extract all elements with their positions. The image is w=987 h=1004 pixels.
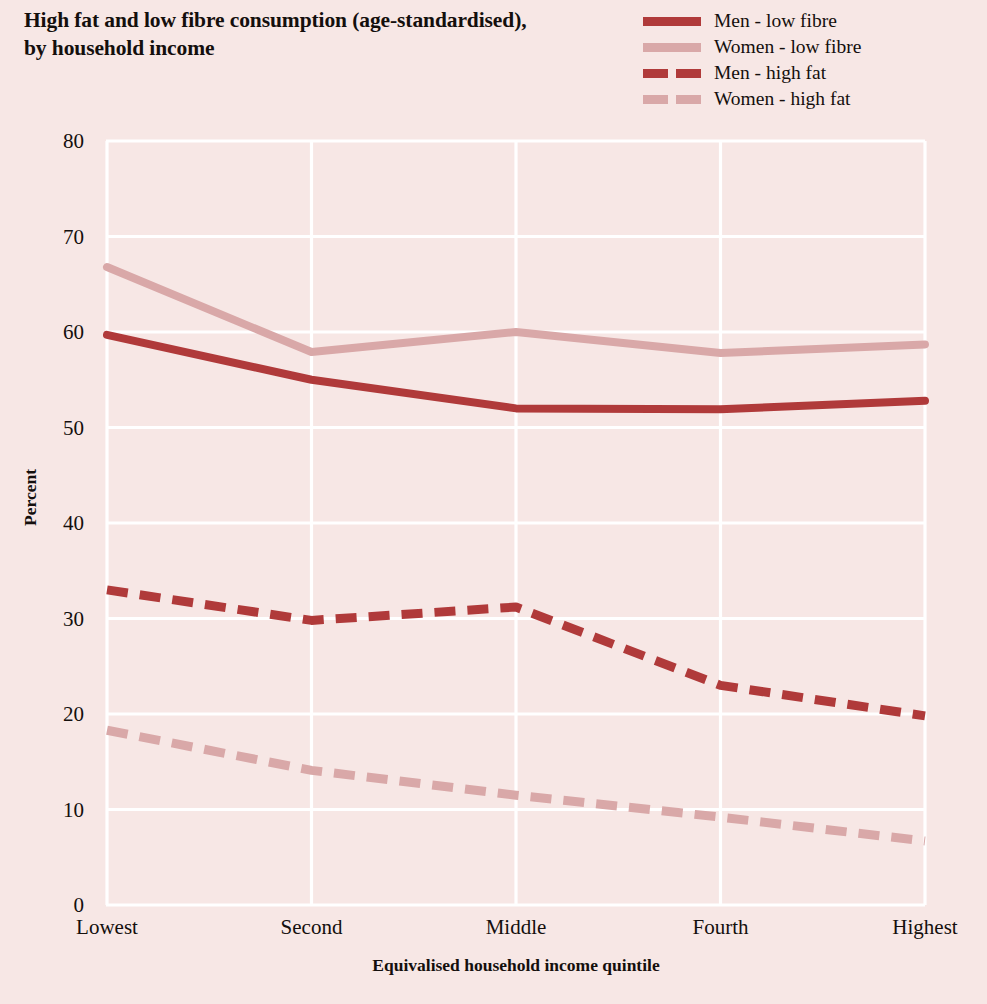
- x-tick-label: Highest: [825, 915, 987, 940]
- y-tick-label: 60: [22, 320, 84, 345]
- x-axis-ticks: LowestSecondMiddleFourthHighest: [107, 915, 925, 949]
- y-tick-label: 50: [22, 415, 84, 440]
- y-tick-label: 80: [22, 129, 84, 154]
- y-tick-label: 30: [22, 606, 84, 631]
- x-tick-label: Lowest: [7, 915, 207, 940]
- y-tick-label: 20: [22, 702, 84, 727]
- x-tick-label: Second: [212, 915, 412, 940]
- line-chart-svg: [0, 0, 987, 1004]
- y-axis-title: Percent: [20, 448, 41, 548]
- x-tick-label: Middle: [416, 915, 616, 940]
- x-axis-title: Equivalised household income quintile: [107, 955, 925, 976]
- y-tick-label: 70: [22, 224, 84, 249]
- chart-plot-area: 01020304050607080 Percent LowestSecondMi…: [0, 0, 987, 1004]
- y-tick-label: 10: [22, 797, 84, 822]
- y-tick-label: 0: [22, 893, 84, 918]
- x-tick-label: Fourth: [621, 915, 821, 940]
